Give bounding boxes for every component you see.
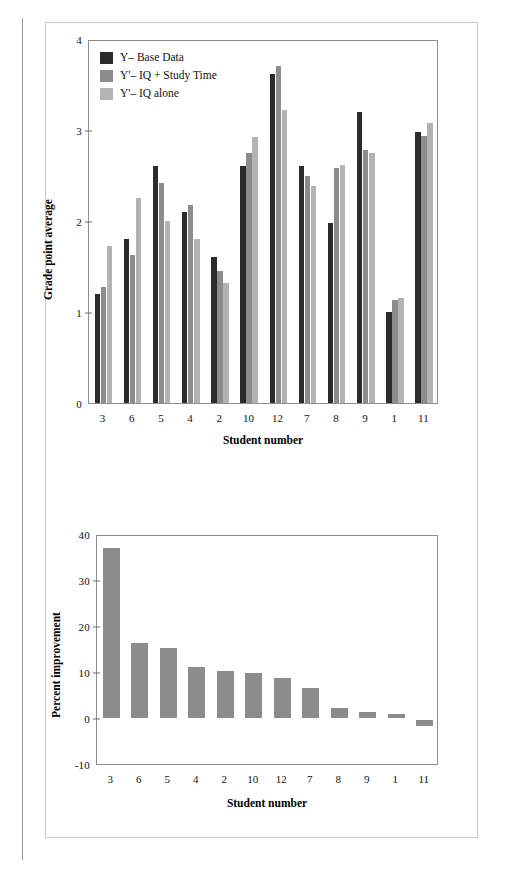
bar [340, 165, 345, 403]
gpa-y-axis-title: Grade point average [42, 199, 54, 300]
improvement-x-axis-title: Student number [227, 797, 307, 809]
improvement-plot-area [96, 535, 438, 765]
y-tick-label: 3 [76, 125, 82, 137]
bar [392, 300, 397, 403]
y-tick-mark [93, 673, 100, 674]
x-tick-label: 12 [272, 412, 283, 424]
y-tick-label: 40 [79, 529, 90, 541]
y-tick-label: 10 [79, 667, 90, 679]
bar [328, 223, 333, 403]
legend-swatch-icon [100, 52, 113, 64]
y-tick-mark [85, 313, 92, 314]
x-tick-label: 2 [222, 773, 228, 785]
bar [282, 110, 287, 403]
x-tick-label: 5 [165, 773, 171, 785]
y-tick-label: 30 [79, 575, 90, 587]
bar [211, 257, 216, 403]
bar [107, 246, 112, 403]
bar [270, 74, 275, 403]
legend-label: Y'– IQ + Study Time [120, 70, 217, 82]
bar [252, 137, 257, 403]
y-tick-label: 0 [76, 398, 82, 410]
x-tick-label: 7 [304, 412, 310, 424]
legend-label: Y– Base Data [120, 52, 184, 64]
x-tick-label: 11 [418, 773, 429, 785]
bar [331, 708, 348, 718]
bar [103, 548, 120, 718]
x-tick-label: 9 [362, 412, 368, 424]
bar [421, 136, 426, 403]
bar [357, 112, 362, 403]
bar [334, 168, 339, 403]
x-tick-label: 4 [187, 412, 193, 424]
bar [153, 166, 158, 403]
bar [165, 221, 170, 403]
gpa-x-axis-title: Student number [223, 434, 303, 446]
bar [136, 198, 141, 403]
bar [188, 205, 193, 403]
bar [388, 714, 405, 718]
x-tick-label: 5 [158, 412, 164, 424]
x-tick-label: 10 [243, 412, 254, 424]
bar [182, 212, 187, 403]
bar [245, 673, 262, 718]
bar [124, 239, 129, 403]
bar [188, 667, 205, 718]
bar [359, 712, 376, 718]
bar [159, 183, 164, 403]
bar [311, 186, 316, 403]
bar [101, 287, 106, 403]
y-tick-mark [93, 627, 100, 628]
bar [427, 123, 432, 403]
x-tick-label: 3 [100, 412, 106, 424]
x-tick-label: 4 [193, 773, 199, 785]
bar [130, 255, 135, 403]
x-tick-label: 8 [336, 773, 342, 785]
x-tick-label: 11 [418, 412, 429, 424]
x-tick-label: 6 [129, 412, 135, 424]
bar [217, 271, 222, 403]
legend-label: Y'– IQ alone [120, 88, 179, 100]
x-tick-label: 10 [247, 773, 258, 785]
y-tick-mark [93, 581, 100, 582]
improvement-y-axis-title: Percent improvement [50, 612, 62, 718]
y-tick-label: -10 [75, 759, 90, 771]
bar [246, 153, 251, 403]
y-tick-mark [85, 222, 92, 223]
y-tick-label: 0 [84, 713, 90, 725]
bar [276, 66, 281, 403]
y-tick-label: 20 [79, 621, 90, 633]
bar [305, 176, 310, 404]
gpa-figure: 01234 365421012789111 Grade point averag… [0, 0, 512, 470]
x-tick-label: 6 [136, 773, 142, 785]
bar [223, 283, 228, 403]
bar [274, 678, 291, 718]
bar [369, 153, 374, 403]
x-tick-label: 9 [364, 773, 370, 785]
y-tick-label: 2 [76, 216, 82, 228]
bar [194, 239, 199, 403]
x-tick-label: 1 [393, 773, 399, 785]
legend-item: Y'– IQ alone [100, 86, 217, 102]
bar [217, 671, 234, 718]
x-tick-label: 2 [217, 412, 223, 424]
bar [415, 132, 420, 403]
x-tick-label: 8 [333, 412, 339, 424]
bar [363, 150, 368, 403]
bar [131, 643, 148, 718]
bar [416, 720, 433, 726]
bar [386, 312, 391, 403]
y-tick-mark [93, 719, 100, 720]
legend-item: Y– Base Data [100, 50, 217, 66]
legend-item: Y'– IQ + Study Time [100, 68, 217, 84]
bar [95, 294, 100, 403]
bar [240, 166, 245, 403]
bar [398, 298, 403, 403]
y-tick-label: 1 [76, 307, 82, 319]
bar [299, 166, 304, 403]
improvement-figure: -10010203040 365421012789111 Percent imp… [0, 470, 512, 870]
x-tick-label: 3 [108, 773, 114, 785]
bar [160, 648, 177, 718]
y-tick-mark [85, 131, 92, 132]
legend-swatch-icon [100, 70, 113, 82]
